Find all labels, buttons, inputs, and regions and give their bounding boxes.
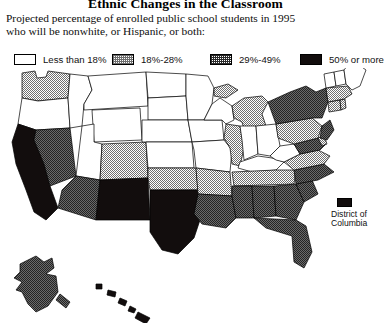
legend-swatch-mid-icon: [210, 54, 232, 65]
state-florida: [254, 218, 312, 268]
state-texas: [150, 190, 202, 254]
legend-label: 50% or more: [329, 54, 384, 65]
state-new-mexico: [96, 178, 150, 220]
dc-swatch-icon: [337, 198, 352, 207]
state-massachusetts: [326, 86, 352, 102]
state-rhode-island: [340, 99, 346, 110]
state-arkansas: [196, 168, 232, 196]
state-tennessee: [232, 170, 296, 186]
legend-label: 18%-28%: [141, 54, 183, 65]
subtitle-line-2: who will be nonwhite, or Hispanic, or bo…: [6, 25, 364, 38]
state-louisiana: [194, 194, 236, 228]
subtitle: Projected percentage of enrolled public …: [6, 12, 364, 39]
state-alabama: [252, 186, 276, 218]
legend-item-18-28: 18%-28%: [112, 52, 183, 66]
state-montana: [84, 72, 148, 110]
legend-swatch-dark-icon: [300, 54, 322, 65]
legend-item-29-49: 29%-49%: [210, 52, 281, 66]
state-missouri: [192, 140, 232, 172]
state-new-york: [268, 86, 328, 124]
legend-item-50-or-more: 50% or more: [300, 52, 384, 66]
legend: Less than 18% 18%-28% 29%-49% 50% or mor…: [14, 52, 364, 68]
state-washington: [22, 71, 70, 101]
state-hawaii: [96, 284, 150, 323]
dc-label: District of Columbia: [331, 210, 371, 229]
state-mississippi: [232, 186, 254, 218]
subtitle-line-1: Projected percentage of enrolled public …: [6, 12, 295, 24]
state-oklahoma: [148, 168, 198, 190]
legend-label: Less than 18%: [43, 54, 106, 65]
state-nebraska: [142, 120, 192, 142]
state-colorado: [100, 142, 148, 180]
state-wyoming: [92, 108, 142, 142]
state-arizona: [58, 176, 100, 220]
state-north-dakota: [146, 72, 186, 98]
state-kansas: [146, 142, 194, 168]
map-svg: [0, 68, 371, 323]
state-oregon: [18, 98, 70, 130]
choropleth-map: [0, 68, 371, 323]
page-title: Ethnic Changes in the Classroom: [0, 0, 371, 12]
state-new-jersey: [320, 120, 334, 140]
dc-callout: District of Columbia: [331, 198, 371, 229]
state-alaska: [14, 256, 70, 312]
dc-label-line-2: Columbia: [331, 219, 371, 228]
state-iowa: [188, 120, 224, 142]
legend-label: 29%-49%: [239, 54, 281, 65]
legend-item-less-than-18: Less than 18%: [14, 52, 106, 66]
legend-swatch-white-icon: [14, 54, 36, 65]
legend-swatch-light-icon: [112, 54, 134, 65]
state-south-dakota: [148, 96, 188, 120]
